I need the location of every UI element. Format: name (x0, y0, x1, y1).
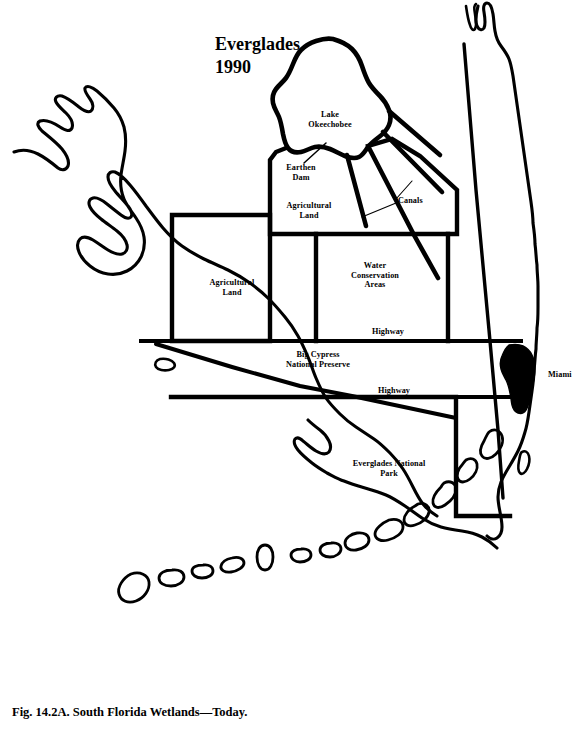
label-canals: Canals (398, 196, 444, 206)
label-highway-south: Highway (366, 386, 422, 396)
label-big-cypress-national-preserve: Big Cypress National Preserve (270, 350, 366, 369)
label-miami: Miami (548, 370, 580, 380)
figure-title: Everglades 1990 (215, 33, 365, 78)
title-line-2: 1990 (215, 56, 365, 79)
label-agricultural-land-north: Agricultural Land (272, 201, 346, 220)
label-lake-okeechobee: Lake Okeechobee (292, 110, 368, 129)
figure-caption: Fig. 14.2A. South Florida Wetlands—Today… (12, 705, 247, 720)
label-water-conservation-areas: Water Conservation Areas (336, 261, 414, 290)
label-earthen-dam: Earthen Dam (272, 163, 330, 182)
label-everglades-national-park: Everglades National Park (334, 459, 444, 478)
label-highway-north: Highway (360, 327, 416, 337)
figure-page: Everglades 1990 Lake Okeechobee Earthen … (0, 0, 581, 735)
title-line-1: Everglades (215, 34, 300, 54)
label-agricultural-land-west: Agricultural Land (194, 278, 270, 297)
